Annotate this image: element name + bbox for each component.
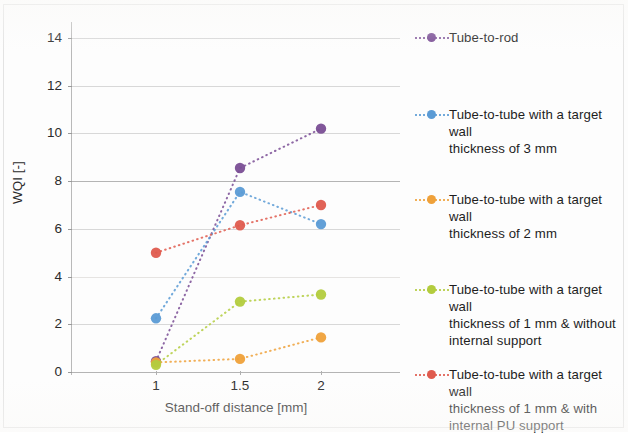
legend-item-1[interactable]: Tube-to-tube with a target wall thicknes…	[415, 106, 628, 157]
chart-plot-area: 02468101214 11.52 Stand-off distance [mm…	[0, 0, 410, 432]
series-2	[151, 332, 326, 367]
legend-label-4: Tube-to-tube with a target wall thicknes…	[449, 366, 628, 434]
series-4	[151, 200, 326, 258]
legend-key-3	[415, 282, 449, 298]
legend-marker-icon	[427, 195, 436, 204]
data-point	[316, 219, 326, 229]
data-point	[316, 200, 326, 210]
data-point	[316, 332, 326, 342]
chart-legend: Tube-to-rodTube-to-tube with a target wa…	[415, 0, 628, 432]
data-point	[316, 289, 326, 299]
legend-label-0: Tube-to-rod	[449, 29, 519, 46]
legend-marker-icon	[427, 285, 436, 294]
data-point	[151, 248, 161, 258]
data-point	[235, 354, 245, 364]
legend-item-2[interactable]: Tube-to-tube with a target wall thicknes…	[415, 191, 628, 242]
legend-key-2	[415, 192, 449, 208]
data-point	[151, 313, 161, 323]
x-axis-title: Stand-off distance [mm]	[72, 400, 400, 415]
legend-label-2: Tube-to-tube with a target wall thicknes…	[449, 191, 628, 242]
data-point	[235, 187, 245, 197]
data-point	[151, 360, 161, 370]
legend-key-1	[415, 107, 449, 123]
legend-marker-icon	[427, 33, 436, 42]
legend-item-4[interactable]: Tube-to-tube with a target wall thicknes…	[415, 366, 628, 434]
y-axis-title: WQI [-]	[10, 138, 25, 228]
legend-item-3[interactable]: Tube-to-tube with a target wall thicknes…	[415, 281, 628, 349]
legend-marker-icon	[427, 370, 436, 379]
data-point	[235, 163, 245, 173]
legend-marker-icon	[427, 110, 436, 119]
data-point	[235, 220, 245, 230]
data-point	[235, 296, 245, 306]
legend-label-1: Tube-to-tube with a target wall thicknes…	[449, 106, 628, 157]
data-point	[316, 123, 326, 133]
chart-series-layer	[0, 0, 410, 432]
legend-label-3: Tube-to-tube with a target wall thicknes…	[449, 281, 628, 349]
series-0	[151, 123, 326, 366]
legend-item-0[interactable]: Tube-to-rod	[415, 29, 628, 46]
legend-key-4	[415, 367, 449, 383]
legend-key-0	[415, 30, 449, 46]
